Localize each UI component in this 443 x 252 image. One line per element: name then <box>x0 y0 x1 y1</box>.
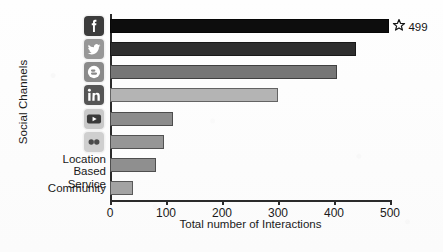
bar[interactable] <box>110 19 389 33</box>
bar[interactable] <box>110 42 356 56</box>
bar-row[interactable] <box>110 14 390 37</box>
linkedin-icon <box>84 85 104 105</box>
bar[interactable] <box>110 181 133 195</box>
x-axis-tick <box>110 200 112 205</box>
x-axis-tick <box>390 200 392 205</box>
x-axis-title: Total number of Interactions <box>110 218 391 230</box>
bar[interactable] <box>110 135 164 149</box>
blogger-icon <box>84 62 104 82</box>
y-axis-title: Social Channels <box>17 32 29 172</box>
bar-chart: Social Channels Location Based ServiceCo… <box>0 0 443 252</box>
bar[interactable] <box>110 65 337 79</box>
bar-row[interactable] <box>110 84 390 107</box>
star-icon <box>392 18 406 36</box>
twitter-icon <box>84 39 104 59</box>
bar[interactable] <box>110 88 278 102</box>
x-axis-tick <box>166 200 168 205</box>
x-axis-tick <box>278 200 280 205</box>
x-axis-tick <box>222 200 224 205</box>
plot-area: Location Based ServiceCommunity 01002003… <box>110 14 390 200</box>
bar-row[interactable]: Community <box>110 177 390 200</box>
annotation-value: 499 <box>408 21 427 33</box>
x-axis-tick <box>334 200 336 205</box>
bar-row[interactable]: Location Based Service <box>110 154 390 177</box>
bar[interactable] <box>110 158 156 172</box>
flickr-icon <box>84 132 104 152</box>
facebook-icon <box>84 16 104 36</box>
facebook-annotation: 499 <box>392 18 427 36</box>
y-axis-tick-label: Community <box>48 182 106 195</box>
x-axis-line <box>110 200 391 202</box>
youtube-icon <box>84 109 104 129</box>
bar[interactable] <box>110 112 173 126</box>
bar-row[interactable] <box>110 130 390 153</box>
bar-row[interactable] <box>110 107 390 130</box>
bar-row[interactable] <box>110 61 390 84</box>
bar-row[interactable] <box>110 37 390 60</box>
